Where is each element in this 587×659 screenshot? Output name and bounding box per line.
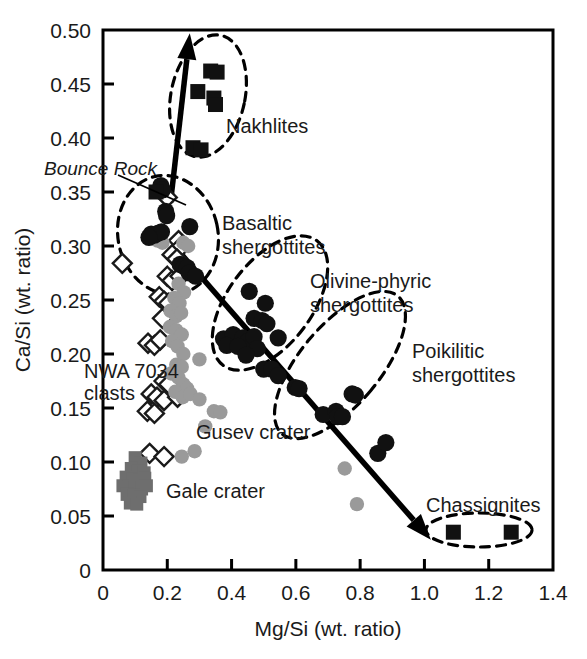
x-tick-label: 1.2 <box>474 581 503 604</box>
data-point <box>338 461 352 475</box>
data-point <box>192 352 206 366</box>
annotation-nwa7034-line2: clasts <box>84 382 135 404</box>
data-point <box>194 142 209 157</box>
data-point <box>187 444 201 458</box>
data-point <box>350 497 364 511</box>
y-tick-label: 0.35 <box>50 181 91 204</box>
data-point <box>174 306 188 320</box>
data-point <box>258 315 275 332</box>
data-point <box>270 367 287 384</box>
x-tick-label: 0.4 <box>217 581 247 604</box>
chart-canvas: 00.20.40.60.81.01.21.4 00.050.100.150.20… <box>0 0 587 659</box>
annotation-gale: Gale crater <box>166 480 265 502</box>
data-point <box>208 97 223 112</box>
y-axis-title: Ca/Si (wt. ratio) <box>11 228 34 373</box>
scatter-plot-figure: 00.20.40.60.81.01.21.4 00.050.100.150.20… <box>0 0 587 659</box>
data-point <box>347 386 364 403</box>
annotation-olivine-line1: Olivine-phyric <box>310 270 431 292</box>
data-point <box>270 329 287 346</box>
data-point <box>181 239 195 253</box>
annotation-nakhlites: Nakhlites <box>226 115 308 137</box>
data-point <box>175 449 189 463</box>
data-point <box>237 346 254 363</box>
data-point <box>257 295 274 312</box>
y-tick-label: 0.45 <box>50 73 91 96</box>
x-tick-label: 0.2 <box>153 581 182 604</box>
x-tick-label: 1.4 <box>538 581 568 604</box>
y-tick-label: 0.40 <box>50 127 91 150</box>
data-point <box>210 65 225 80</box>
y-tick-label: 0 <box>79 559 91 582</box>
data-point <box>377 434 394 451</box>
data-point <box>192 392 206 406</box>
data-point <box>190 84 205 99</box>
data-point <box>140 229 157 246</box>
data-point <box>158 207 175 224</box>
data-point <box>446 525 461 540</box>
annotation-bounce-rock: Bounce Rock <box>44 158 159 179</box>
annotation-chassignites: Chassignites <box>426 494 541 516</box>
annotation-basaltic-line2: shergottites <box>222 236 325 258</box>
y-tick-label: 0.25 <box>50 289 91 312</box>
annotation-poikilitic-line2: shergottites <box>412 364 515 386</box>
x-axis-title: Mg/Si (wt. ratio) <box>254 617 401 640</box>
data-point <box>334 408 351 425</box>
y-tick-label: 0.10 <box>50 451 91 474</box>
annotation-basaltic-line1: Basaltic <box>222 212 292 234</box>
data-point <box>181 218 198 235</box>
x-tick-label: 0.6 <box>281 581 310 604</box>
x-tick-label: 0.8 <box>346 581 375 604</box>
x-tick-label: 1.0 <box>410 581 439 604</box>
data-point <box>130 498 143 511</box>
y-tick-label: 0.30 <box>50 235 91 258</box>
data-point <box>241 283 258 300</box>
annotation-gusev: Gusev crater <box>196 421 311 443</box>
annotation-poikilitic-line1: Poikilitic <box>412 340 484 362</box>
annotation-nwa7034-line1: NWA 7034 <box>84 360 179 382</box>
annotation-olivine-line2: shergottites <box>310 294 413 316</box>
data-point <box>504 525 519 540</box>
y-tick-label: 0.05 <box>50 505 91 528</box>
data-point <box>290 380 307 397</box>
data-point <box>187 268 204 285</box>
y-tick-label: 0.50 <box>50 19 91 42</box>
x-tick-label: 0 <box>97 581 109 604</box>
data-point <box>213 405 227 419</box>
